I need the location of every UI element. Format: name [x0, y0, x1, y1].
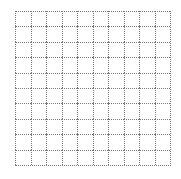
grid-cell [46, 150, 62, 165]
grid-cell [77, 88, 93, 103]
grid-cell [155, 150, 171, 165]
grid-cell [31, 57, 47, 72]
grid-cell [93, 42, 109, 57]
grid-cell [15, 73, 31, 88]
grid-cell [139, 134, 155, 149]
grid-cell [15, 150, 31, 165]
grid-cell [108, 134, 124, 149]
grid-cell [124, 57, 140, 72]
grid-cell [46, 134, 62, 149]
grid-cell [139, 57, 155, 72]
grid-cell [31, 119, 47, 134]
grid-cell [15, 88, 31, 103]
grid-cell [46, 57, 62, 72]
grid-cell [77, 134, 93, 149]
grid-cell [46, 42, 62, 57]
grid-cell [31, 134, 47, 149]
grid-cell [77, 42, 93, 57]
grid-cell [93, 57, 109, 72]
grid-cell [46, 73, 62, 88]
grid-cell [46, 88, 62, 103]
grid-cell [93, 119, 109, 134]
grid-cell [124, 150, 140, 165]
grid-cell [155, 73, 171, 88]
grid-cell [108, 119, 124, 134]
grid-cell [31, 150, 47, 165]
grid-cell [93, 134, 109, 149]
grid-cell [124, 11, 140, 26]
grid-cell [139, 73, 155, 88]
grid-cell [108, 150, 124, 165]
grid-cell [15, 26, 31, 41]
grid-cell [108, 57, 124, 72]
grid-cell [62, 134, 78, 149]
grid-cell [155, 26, 171, 41]
grid-cell [93, 150, 109, 165]
grid-cell [155, 119, 171, 134]
grid-cell [62, 73, 78, 88]
grid-cell [15, 119, 31, 134]
grid-cell [108, 103, 124, 118]
grid-cell [139, 42, 155, 57]
grid-cell [62, 150, 78, 165]
grid-cell [31, 26, 47, 41]
grid-cell [124, 42, 140, 57]
grid-cell [93, 103, 109, 118]
grid-cell [31, 42, 47, 57]
grid-cell [108, 73, 124, 88]
grid-cell [124, 103, 140, 118]
grid-cell [77, 119, 93, 134]
grid-cell [155, 42, 171, 57]
grid-cell [31, 11, 47, 26]
grid-cell [46, 11, 62, 26]
grid-cell [155, 11, 171, 26]
grid-cell [93, 26, 109, 41]
grid-cell [62, 103, 78, 118]
grid-cell [15, 42, 31, 57]
grid-cell [15, 103, 31, 118]
grid-cell [155, 134, 171, 149]
grid-cell [77, 26, 93, 41]
grid-cell [77, 11, 93, 26]
grid-cell [31, 103, 47, 118]
grid-cell [139, 150, 155, 165]
grid-cell [124, 134, 140, 149]
grid-cell [31, 88, 47, 103]
grid-cell [155, 88, 171, 103]
grid-cell [93, 88, 109, 103]
grid-cell [62, 11, 78, 26]
grid-cell [77, 103, 93, 118]
grid-cell [46, 103, 62, 118]
grid-cell [93, 11, 109, 26]
grid-cell [124, 73, 140, 88]
grid-cell [124, 26, 140, 41]
grid-cell [46, 119, 62, 134]
canvas [0, 0, 181, 179]
grid-cell [46, 26, 62, 41]
grid-cell [155, 57, 171, 72]
grid-cell [77, 150, 93, 165]
grid-cell [77, 73, 93, 88]
grid-cell [108, 88, 124, 103]
grid-cell [139, 26, 155, 41]
grid-cell [62, 42, 78, 57]
grid-cell [15, 134, 31, 149]
grid-cell [108, 42, 124, 57]
grid-cell [77, 57, 93, 72]
grid-cell [139, 103, 155, 118]
grid-cell [93, 73, 109, 88]
grid-cell [31, 73, 47, 88]
grid-cell [15, 57, 31, 72]
grid-cell [124, 88, 140, 103]
grid-cell [62, 57, 78, 72]
grid-cell [62, 26, 78, 41]
grid-cell [139, 119, 155, 134]
grid-cell [15, 11, 31, 26]
grid-cell [62, 88, 78, 103]
grid-cell [155, 103, 171, 118]
grid-cell [108, 11, 124, 26]
grid-cell [108, 26, 124, 41]
dotted-grid [15, 11, 171, 166]
grid-cell [139, 88, 155, 103]
grid-cell [62, 119, 78, 134]
